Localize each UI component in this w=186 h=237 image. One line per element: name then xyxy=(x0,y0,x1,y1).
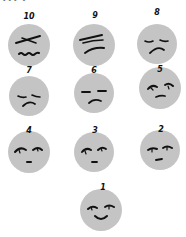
scale-label-10: 10 xyxy=(19,13,39,21)
face-8-icon xyxy=(137,24,177,64)
face-9-icon xyxy=(73,24,115,66)
face-6-icon xyxy=(74,73,114,113)
scale-label-3: 3 xyxy=(85,127,105,135)
face-3-icon xyxy=(74,132,114,172)
scale-label-7: 7 xyxy=(19,67,39,75)
scale-label-1: 1 xyxy=(93,184,113,192)
scale-label-4: 4 xyxy=(19,127,39,135)
scale-label-2: 2 xyxy=(151,126,171,134)
scale-label-5: 5 xyxy=(150,66,170,74)
face-4-icon xyxy=(8,131,50,173)
faces-canvas xyxy=(0,0,186,237)
scale-label-6: 6 xyxy=(84,67,104,75)
face-1-icon xyxy=(80,189,122,231)
face-10-icon xyxy=(8,24,50,66)
pain-face-scale: 10 9 8 7 6 5 4 3 2 1 xyxy=(0,0,186,237)
face-2-icon xyxy=(140,130,180,170)
scale-label-9: 9 xyxy=(85,12,105,20)
scale-label-8: 8 xyxy=(147,9,167,17)
face-7-icon xyxy=(9,76,49,116)
